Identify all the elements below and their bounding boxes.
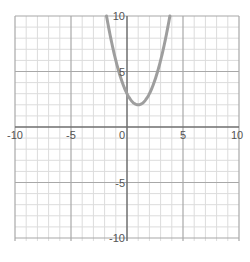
x-tick-label: 5 — [180, 129, 186, 141]
y-tick-label: -5 — [115, 177, 125, 189]
x-tick-label: -5 — [66, 129, 76, 141]
y-tick-label: 10 — [113, 10, 125, 22]
x-tick-label: -10 — [7, 129, 23, 141]
x-tick-label: 10 — [231, 129, 243, 141]
x-tick-label: 0 — [119, 129, 125, 141]
y-tick-label: -10 — [109, 232, 125, 244]
coordinate-plane: -10-50510-10-5510 — [0, 0, 250, 262]
y-tick-label: 5 — [119, 66, 125, 78]
